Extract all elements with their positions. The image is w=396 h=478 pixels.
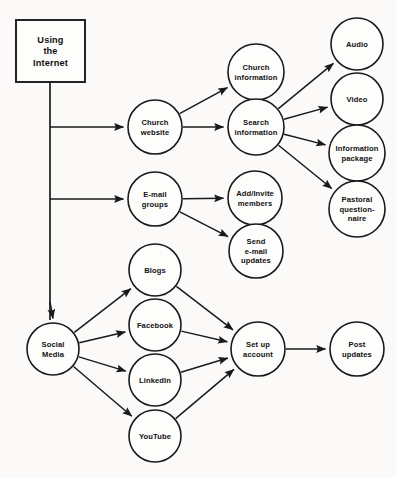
edge-search-information-to-video <box>284 107 328 119</box>
node-information-package[interactable]: Informationpackage <box>329 125 385 181</box>
node-facebook[interactable]: Facebook <box>129 299 181 351</box>
flowchart-diagram: UsingtheInternetChurchwebsiteE-mailgroup… <box>0 0 396 478</box>
node-pastoral-questionnaire[interactable]: Pastoralquestion-naire <box>329 181 385 237</box>
node-label-line: Post <box>349 340 366 349</box>
node-label-line: Information <box>336 144 379 153</box>
node-label-line: groups <box>142 200 168 209</box>
edge-search-information-to-pastoral-questionnaire <box>279 145 332 188</box>
node-label-line: Social <box>42 340 65 349</box>
root-label-line: Using <box>37 35 63 45</box>
edge-facebook-to-set-up-account <box>181 331 227 342</box>
edge-search-information-to-audio <box>278 63 333 108</box>
node-label-line: question- <box>339 205 374 214</box>
node-church-website[interactable]: Churchwebsite <box>128 100 182 154</box>
root-label-line: the <box>43 46 57 56</box>
node-label-line: Send <box>247 237 266 246</box>
edge-social-media-to-facebook <box>79 332 125 343</box>
node-label-line: Pastoral <box>342 195 373 204</box>
node-add-invite-members[interactable]: Add/Invitemembers <box>228 171 282 225</box>
node-label-line: information <box>235 73 278 82</box>
node-label-line: Church <box>242 63 269 72</box>
edge-social-media-to-youtube <box>74 367 132 417</box>
node-label-line: account <box>243 350 273 359</box>
node-label-line: package <box>341 154 372 163</box>
edge-church-website-to-church-information <box>180 88 228 114</box>
node-label-line: Add/Invite <box>236 189 274 198</box>
node-audio[interactable]: Audio <box>331 18 383 70</box>
node-label-line: E-mail <box>143 190 166 199</box>
root-label-line: Internet <box>33 58 68 68</box>
node-label-line: Audio <box>346 40 368 49</box>
edge-email-groups-to-send-email-updates <box>180 212 228 237</box>
edge-youtube-to-set-up-account <box>176 369 234 418</box>
node-label-line: updates <box>342 350 372 359</box>
node-label-line: YouTube <box>139 432 171 441</box>
node-email-groups[interactable]: E-mailgroups <box>128 172 182 226</box>
edge-search-information-to-information-package <box>284 134 325 145</box>
node-label-line: naire <box>348 214 367 223</box>
node-blogs[interactable]: Blogs <box>129 244 181 296</box>
node-root-using-the-internet[interactable]: UsingtheInternet <box>16 20 85 82</box>
edges-layer <box>50 63 333 418</box>
node-label-line: e-mail <box>245 247 268 256</box>
node-linkedin[interactable]: LinkedIn <box>129 354 181 406</box>
node-church-information[interactable]: Churchinformation <box>228 44 284 100</box>
node-label-line: information <box>235 128 278 137</box>
edge-linkedin-to-set-up-account <box>181 358 228 372</box>
node-label-line: members <box>238 199 272 208</box>
node-post-updates[interactable]: Postupdates <box>330 322 384 376</box>
node-search-information[interactable]: Searchinformation <box>228 99 284 155</box>
edge-blogs-to-set-up-account <box>176 286 233 329</box>
node-send-email-updates[interactable]: Sende-mailupdates <box>229 224 283 278</box>
node-label-line: Media <box>42 350 65 359</box>
node-label-line: website <box>140 128 170 137</box>
node-label-line: Video <box>346 95 367 104</box>
edge-social-media-to-blogs <box>74 289 131 333</box>
node-video[interactable]: Video <box>331 73 383 125</box>
node-social-media[interactable]: SocialMedia <box>27 323 79 375</box>
node-set-up-account[interactable]: Set upaccount <box>231 322 285 376</box>
edge-social-media-to-linkedin <box>79 357 126 371</box>
node-label-line: Search <box>243 118 269 127</box>
node-label-line: Blogs <box>144 266 166 275</box>
nodes-layer: UsingtheInternetChurchwebsiteE-mailgroup… <box>16 18 385 462</box>
node-youtube[interactable]: YouTube <box>129 410 181 462</box>
node-label-line: Church <box>141 118 168 127</box>
node-label-line: updates <box>241 256 271 265</box>
node-label-line: LinkedIn <box>139 376 171 385</box>
node-label-line: Facebook <box>137 321 174 330</box>
node-label-line: Set up <box>246 340 270 349</box>
flowchart-canvas: UsingtheInternetChurchwebsiteE-mailgroup… <box>0 0 396 478</box>
